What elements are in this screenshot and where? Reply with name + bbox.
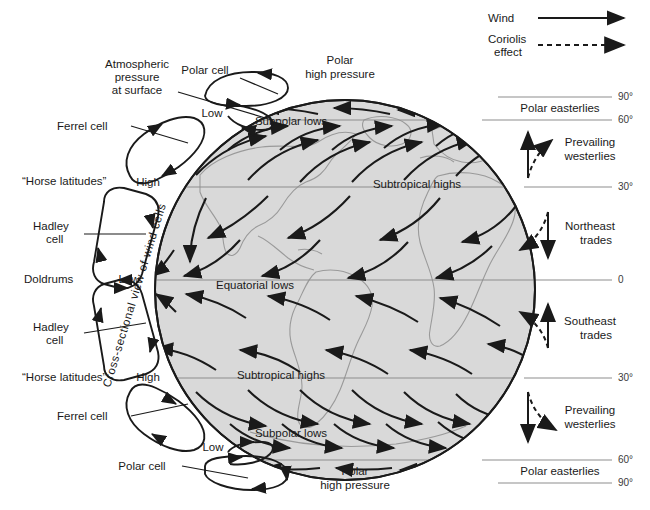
lat-label-30n: 30° — [618, 181, 633, 192]
polar-high-south-line1: Polar — [342, 465, 369, 477]
subtropical-highs-south-label: Subtropical highs — [237, 369, 325, 381]
lat-label-60s: 60° — [618, 454, 633, 465]
hadley-cell-north-line2: cell — [46, 233, 63, 245]
northeast-trades-line2: trades — [580, 234, 612, 246]
legend-label-coriolis-line2: effect — [494, 46, 523, 58]
prevailing-westerlies-north-line1: Prevailing — [565, 136, 616, 148]
lat-label-30s: 30° — [618, 372, 633, 383]
doldrums-label: Doldrums — [24, 273, 73, 285]
legend-label-wind: Wind — [488, 12, 514, 24]
legend-label-coriolis-line1: Coriolis — [488, 33, 527, 45]
atmospheric-pressure-line1: Atmospheric — [105, 58, 169, 70]
southeast-trades-line1: Southeast — [564, 315, 617, 327]
hadley-cell-south-line2: cell — [46, 334, 63, 346]
prevailing-westerlies-north-line2: westerlies — [563, 150, 615, 162]
marker-low-polar-north: Low — [201, 107, 223, 119]
marker-low-polar-south: Low — [202, 441, 224, 453]
polar-high-north-line1: Polar — [327, 54, 354, 66]
ferrel-cell-north-label: Ferrel cell — [57, 120, 107, 132]
polar-cell-north-label: Polar cell — [181, 64, 228, 76]
horse-latitudes-north-label: “Horse latitudes” — [22, 175, 107, 187]
marker-high-subtropical-north: High — [136, 176, 160, 188]
subtropical-highs-north-label: Subtropical highs — [373, 178, 461, 190]
southeast-trades-line2: trades — [580, 329, 612, 341]
prevailing-westerlies-south-line1: Prevailing — [565, 404, 616, 416]
ferrel-cell-south-label: Ferrel cell — [57, 410, 107, 422]
equatorial-lows-label: Equatorial lows — [216, 279, 294, 291]
subpolar-lows-south-label: Subpolar lows — [255, 427, 327, 439]
horse-latitudes-south-label: “Horse latitudes” — [22, 371, 107, 383]
marker-high-subtropical-south: High — [136, 371, 160, 383]
hadley-cell-south-line1: Hadley — [33, 321, 69, 333]
atmospheric-pressure-line3: at surface — [112, 84, 163, 96]
lat-label-90s: 90° — [618, 477, 633, 488]
lat-label-90n: 90° — [618, 91, 633, 102]
subpolar-lows-north-label: Subpolar lows — [255, 115, 327, 127]
circulation-diagram: Wind Coriolis effect 90° 60° 30° 0 30° 6… — [0, 0, 650, 510]
prevailing-westerlies-south-line2: westerlies — [563, 418, 615, 430]
hadley-cell-north-line1: Hadley — [33, 220, 69, 232]
polar-high-north-line2: high pressure — [305, 68, 375, 80]
atmospheric-pressure-line2: pressure — [115, 71, 160, 83]
figure-canvas: Wind Coriolis effect 90° 60° 30° 0 30° 6… — [0, 0, 650, 510]
polar-high-south-line2: high pressure — [320, 479, 390, 491]
polar-easterlies-north-label: Polar easterlies — [520, 102, 600, 114]
lat-label-0: 0 — [618, 274, 624, 285]
polar-easterlies-south-label: Polar easterlies — [520, 465, 600, 477]
northeast-trades-line1: Northeast — [565, 220, 616, 232]
polar-cell-south-label: Polar cell — [118, 460, 165, 472]
lat-label-60n: 60° — [618, 114, 633, 125]
